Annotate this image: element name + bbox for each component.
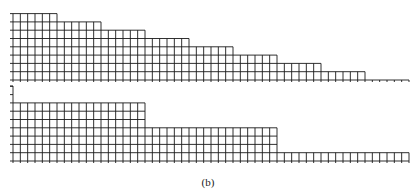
figure-caption: (b) xyxy=(0,176,416,188)
grid-histograms xyxy=(0,0,416,196)
